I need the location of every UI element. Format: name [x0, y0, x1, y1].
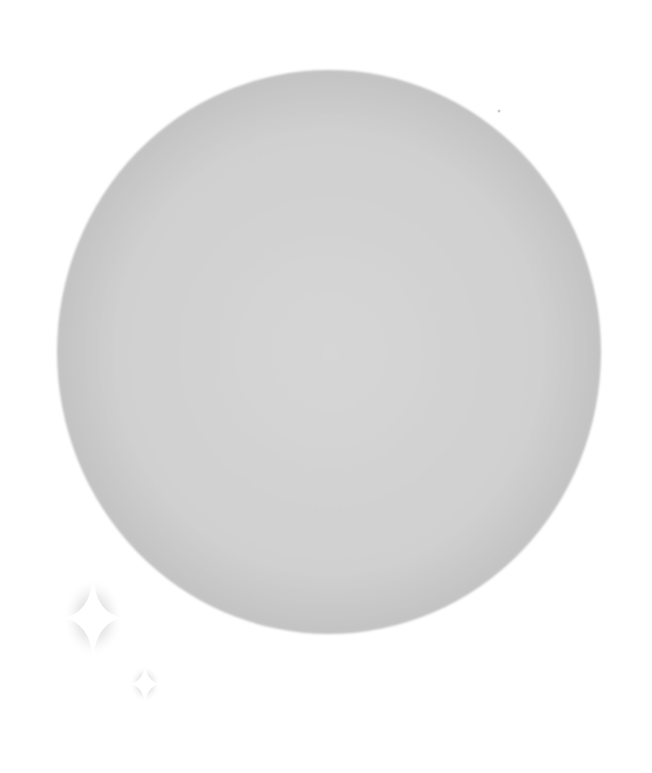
- speck-dot: [498, 110, 501, 113]
- gray-circle: [57, 70, 601, 634]
- scene-graphic: [0, 0, 652, 773]
- illustration-canvas: Gray circle with sparkles: [0, 0, 652, 773]
